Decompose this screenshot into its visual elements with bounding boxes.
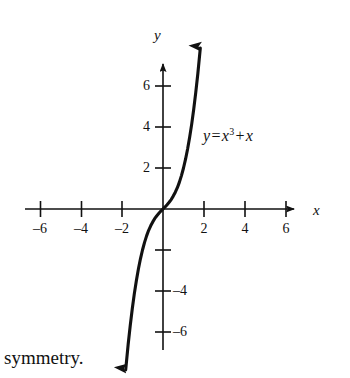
y-axis-letter: y <box>154 28 161 43</box>
y-tick-label: –6 <box>173 325 195 339</box>
y-tick-label: –4 <box>173 284 195 298</box>
x-tick-label: 4 <box>234 222 256 236</box>
x-tick-label: –6 <box>29 222 51 236</box>
caption-text: symmetry. <box>4 348 84 369</box>
equation-term: x <box>246 127 253 144</box>
x-tick-label: –4 <box>70 222 92 236</box>
equation-annotation: y=x3+x <box>203 128 253 144</box>
x-tick-label: 2 <box>193 222 215 236</box>
x-axis-letter: x <box>313 203 320 218</box>
x-tick-label: –2 <box>111 222 133 236</box>
y-tick-label: 6 <box>132 79 150 93</box>
graph-canvas <box>0 0 350 378</box>
y-tick-label: 4 <box>132 120 150 134</box>
equation-plus: + <box>234 127 245 144</box>
figure-container: y x –6–4–2246 642–4–6 y=x3+x symmetry. <box>0 0 350 378</box>
y-tick-label: 2 <box>132 161 150 175</box>
equation-equals: = <box>210 127 221 144</box>
x-tick-label: 6 <box>275 222 297 236</box>
